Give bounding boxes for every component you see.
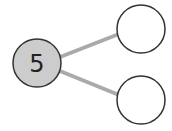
connector-bottom: [60, 71, 119, 95]
whole-circle: 5: [13, 39, 61, 87]
part-circle-top[interactable]: [117, 5, 165, 53]
number-bond-diagram: 5: [0, 0, 172, 131]
whole-value: 5: [29, 50, 44, 78]
connector-top: [60, 34, 119, 57]
part-circle-bottom[interactable]: [117, 76, 165, 124]
